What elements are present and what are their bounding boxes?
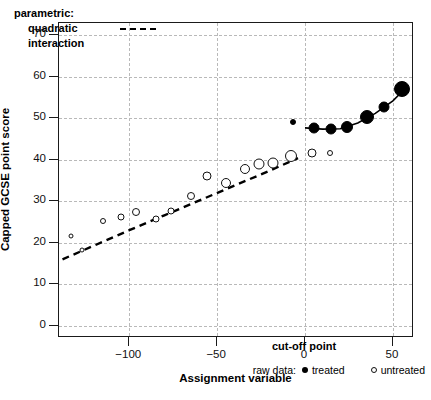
data-point-untreated [187, 192, 195, 200]
plot-area [58, 22, 413, 337]
y-tick-label: 40 [33, 153, 46, 165]
data-point-untreated [202, 172, 211, 181]
parametric-quadratic-interaction-left [63, 158, 299, 259]
data-point-untreated [168, 207, 175, 214]
data-point-untreated [308, 149, 317, 158]
data-point-untreated [69, 234, 74, 239]
y-tick-label: 60 [33, 70, 46, 82]
data-point-untreated [100, 218, 106, 224]
data-point-treated [360, 110, 374, 124]
y-tick-label: 0 [40, 319, 46, 331]
x-tick-label: 50 [386, 349, 399, 361]
filled-circle-icon [302, 367, 308, 373]
legend-parametric-row3: interaction [12, 36, 207, 51]
x-tick-label: −100 [115, 349, 141, 361]
legend-parametric-line2: quadratic [28, 21, 104, 36]
data-point-untreated [285, 150, 297, 162]
parametric-quadratic-interaction-right [305, 89, 405, 130]
cutoff-annotation: cut-off point [272, 340, 336, 352]
data-point-untreated [79, 247, 84, 252]
legend-untreated-label: untreated [381, 364, 425, 376]
plot-canvas [59, 23, 412, 336]
legend-untreated-entry: untreated [371, 364, 425, 376]
x-tick [392, 337, 393, 346]
legend-parametric: parametric: quadratic interaction [12, 6, 207, 51]
data-point-untreated [117, 213, 124, 220]
data-point-treated [308, 122, 319, 133]
y-tick [49, 200, 58, 201]
x-tick-label: −50 [206, 349, 226, 361]
fit-lines [59, 23, 412, 336]
data-point-treated [290, 119, 296, 125]
legend-parametric-line1: parametric: [12, 6, 207, 21]
open-circle-icon [371, 367, 377, 373]
data-point-untreated [240, 164, 250, 174]
y-axis-label: Capped GCSE point score [0, 22, 12, 337]
legend-parametric-line3: interaction [28, 36, 104, 51]
data-point-untreated [254, 158, 265, 169]
legend-raw-data-title: raw data: [253, 364, 296, 376]
y-tick [49, 325, 58, 326]
y-tick [49, 283, 58, 284]
y-tick-label: 30 [33, 194, 46, 206]
x-tick [216, 337, 217, 346]
legend-parametric-row2: quadratic [12, 21, 207, 36]
data-point-untreated [152, 216, 159, 223]
legend-raw-data: raw data: treated untreated [253, 364, 425, 376]
y-tick [49, 242, 58, 243]
y-tick [49, 159, 58, 160]
data-point-untreated [268, 157, 279, 168]
y-tick [49, 76, 58, 77]
data-point-untreated [132, 208, 140, 216]
y-tick [49, 117, 58, 118]
dashed-line-sample-icon [120, 28, 156, 30]
y-tick-label: 10 [33, 277, 46, 289]
legend-treated-label: treated [312, 364, 345, 376]
data-point-treated [341, 121, 353, 133]
data-point-untreated [221, 178, 231, 188]
x-tick [128, 337, 129, 346]
data-point-untreated [327, 150, 333, 156]
y-tick-label: 20 [33, 236, 46, 248]
legend-treated-entry: treated [302, 364, 345, 376]
data-point-treated [394, 81, 410, 97]
y-tick-label: 50 [33, 112, 46, 124]
chart-figure: 010203040506070 Capped GCSE point score … [0, 0, 431, 400]
data-point-treated [326, 124, 337, 135]
data-point-treated [379, 101, 390, 112]
